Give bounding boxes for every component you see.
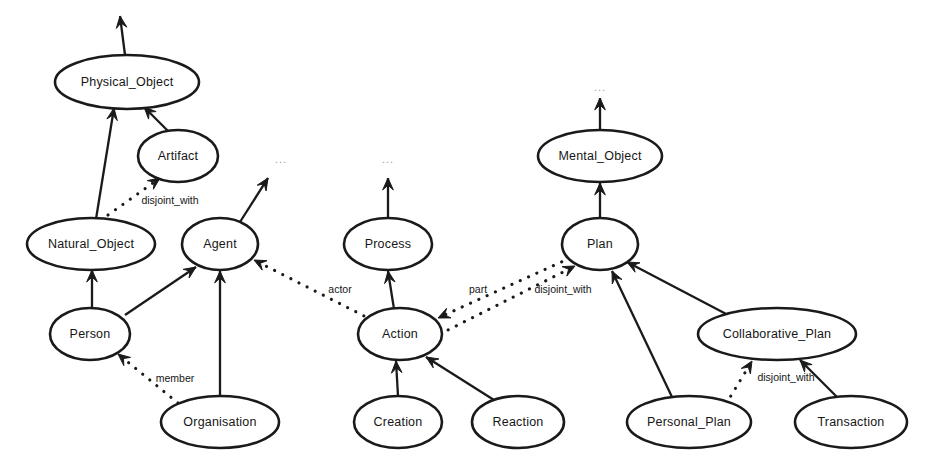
- edge-natural_object-to-artifact: disjoint_with: [108, 178, 199, 215]
- edge-collaborative_plan-to-plan: [627, 262, 730, 316]
- node-label-action: Action: [382, 327, 418, 341]
- edge-agent-to-upper_ellipsis_mid1: [240, 178, 268, 222]
- edge-action-to-agent: actor: [254, 260, 372, 320]
- arrowhead-icon: [257, 178, 268, 191]
- node-physical_object[interactable]: Physical_Object: [55, 55, 199, 109]
- diagram-canvas: disjoint_withmemberactorpartdisjoint_wit…: [0, 0, 932, 476]
- edge-plan-to-mental_object: [595, 183, 606, 218]
- edge-organisation-to-agent: [215, 271, 226, 397]
- node-plan[interactable]: Plan: [562, 218, 638, 270]
- edge-action-to-plan: disjoint_with: [440, 266, 592, 334]
- node-agent[interactable]: Agent: [182, 218, 258, 270]
- node-label-reaction: Reaction: [493, 415, 544, 429]
- node-person[interactable]: Person: [50, 308, 130, 360]
- edge-line-solid: [627, 262, 730, 316]
- node-action[interactable]: Action: [358, 308, 442, 360]
- ellipsis-marker-upper_ellipsis_mid2: ...: [382, 153, 394, 165]
- node-natural_object[interactable]: Natural_Object: [27, 218, 155, 270]
- arrowhead-icon: [562, 266, 575, 276]
- edge-label-part: part: [469, 283, 487, 295]
- node-label-collaborative_plan: Collaborative_Plan: [723, 327, 832, 341]
- edge-person-to-natural_object: [87, 270, 98, 309]
- node-reaction[interactable]: Reaction: [472, 396, 564, 448]
- edge-line-solid: [96, 108, 114, 219]
- node-label-agent: Agent: [203, 237, 237, 251]
- ellipsis-marker-top_ellipsis_right: ...: [594, 81, 606, 93]
- edge-person-to-agent: [125, 267, 196, 315]
- node-label-physical_object: Physical_Object: [81, 75, 174, 89]
- node-transaction[interactable]: Transaction: [795, 396, 907, 448]
- edge-action-to-process: [385, 271, 396, 309]
- edge-line-dotted: [440, 266, 575, 334]
- node-label-artifact: Artifact: [158, 149, 199, 163]
- node-collaborative_plan[interactable]: Collaborative_Plan: [698, 308, 856, 360]
- edge-physical_object-to-top_ellipsis_left: [116, 16, 127, 55]
- nodes-layer: Physical_ObjectArtifactMental_ObjectNatu…: [27, 55, 907, 448]
- node-label-plan: Plan: [587, 237, 613, 251]
- arrowhead-icon: [438, 308, 451, 318]
- edge-artifact-to-physical_object: [144, 107, 168, 131]
- ellipsis-marker-upper_ellipsis_mid1: ...: [275, 153, 287, 165]
- node-label-mental_object: Mental_Object: [558, 149, 642, 163]
- edge-personal_plan-to-plan: [612, 271, 672, 397]
- edge-reaction-to-action: [426, 357, 494, 400]
- edge-label-disjoint_with: disjoint_with: [757, 371, 814, 383]
- edge-label-actor: actor: [328, 283, 352, 295]
- node-process[interactable]: Process: [344, 218, 432, 270]
- edge-process-to-upper_ellipsis_mid2: [383, 178, 394, 218]
- edge-line-solid: [612, 271, 672, 397]
- edge-line-solid: [125, 267, 196, 315]
- arrowhead-icon: [741, 361, 752, 374]
- arrowhead-icon: [183, 267, 196, 278]
- arrowhead-icon: [254, 260, 267, 270]
- edge-creation-to-action: [391, 361, 402, 396]
- edge-label-member: member: [156, 372, 195, 384]
- edge-line-solid: [240, 178, 268, 222]
- edge-label-disjoint_with: disjoint_with: [534, 283, 591, 295]
- node-label-person: Person: [70, 327, 111, 341]
- edge-line-dotted: [254, 260, 372, 320]
- node-personal_plan[interactable]: Personal_Plan: [627, 396, 751, 448]
- edge-line-solid: [426, 357, 494, 400]
- node-label-personal_plan: Personal_Plan: [647, 415, 731, 429]
- node-artifact[interactable]: Artifact: [138, 130, 218, 182]
- node-organisation[interactable]: Organisation: [161, 396, 279, 448]
- node-label-creation: Creation: [374, 415, 423, 429]
- node-mental_object[interactable]: Mental_Object: [538, 130, 662, 182]
- node-label-process: Process: [365, 237, 412, 251]
- node-creation[interactable]: Creation: [354, 396, 442, 448]
- edge-personal_plan-to-collaborative_plan: disjoint_with: [726, 361, 815, 404]
- arrowhead-icon: [426, 357, 439, 368]
- edge-mental_object-to-top_ellipsis_right: [595, 98, 606, 130]
- edge-label-disjoint_with: disjoint_with: [141, 194, 198, 206]
- ontology-graph: disjoint_withmemberactorpartdisjoint_wit…: [0, 0, 932, 476]
- edge-organisation-to-person: member: [118, 354, 195, 403]
- node-label-organisation: Organisation: [183, 415, 256, 429]
- edge-natural_object-to-physical_object: [96, 108, 117, 219]
- node-label-transaction: Transaction: [817, 415, 884, 429]
- node-label-natural_object: Natural_Object: [48, 237, 135, 251]
